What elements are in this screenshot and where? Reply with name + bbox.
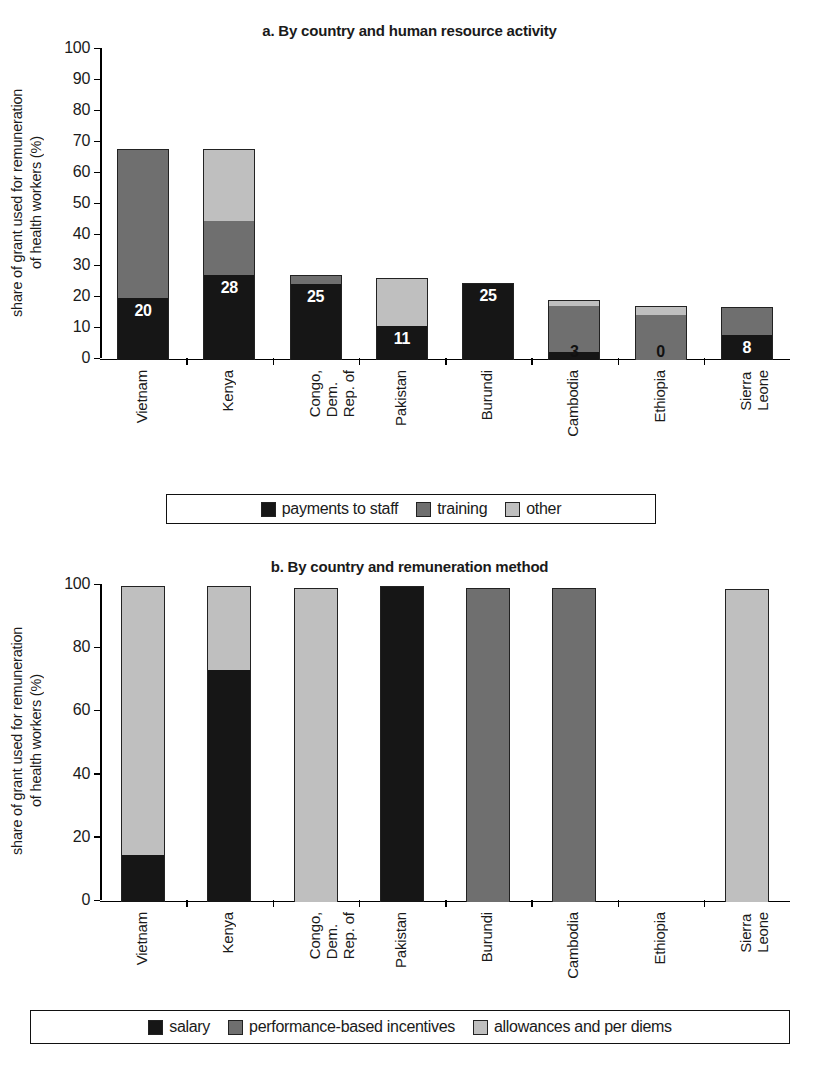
y-tick-mark <box>94 141 100 143</box>
legend-swatch-icon <box>148 1020 163 1035</box>
panel-b-legend: salaryperformance-based incentivesallowa… <box>30 1010 790 1044</box>
y-tick-label: 20 <box>30 828 90 846</box>
x-tick-mark <box>273 358 275 365</box>
bar-kenya[interactable] <box>207 586 251 902</box>
x-category-label: Pakistan <box>392 912 409 968</box>
x-tick-mark <box>186 900 188 907</box>
bar-sierra-leone[interactable]: 8 <box>721 50 773 360</box>
legend-item[interactable]: salary <box>148 1018 210 1036</box>
y-tick-mark <box>94 110 100 112</box>
panel-b-plot-area: 020406080100VietnamKenyaCongo, Dem. Rep.… <box>100 584 790 902</box>
bar-sierra-leone[interactable] <box>725 586 769 902</box>
bar-burundi[interactable] <box>466 586 510 902</box>
panel-a-title: a. By country and human resource activit… <box>0 22 819 39</box>
y-tick-label: 70 <box>30 132 90 150</box>
bar-pakistan[interactable] <box>380 586 424 902</box>
x-tick-mark <box>704 900 706 907</box>
y-tick-label: 40 <box>30 765 90 783</box>
bar-segment-salary <box>380 586 424 902</box>
bar-segment-training <box>721 307 773 335</box>
x-category-label: Vietnam <box>133 912 150 965</box>
legend-item[interactable]: allowances and per diems <box>473 1018 672 1036</box>
bar-segment-other <box>203 149 255 220</box>
legend-item[interactable]: training <box>416 500 487 518</box>
y-tick-mark <box>94 584 100 586</box>
y-tick-label: 100 <box>30 39 90 57</box>
legend-swatch-icon <box>228 1020 243 1035</box>
y-tick-label: 40 <box>30 225 90 243</box>
bar-segment-allowances-and-per-diems <box>121 586 165 855</box>
x-tick-mark <box>186 358 188 365</box>
x-category-label: Vietnam <box>133 370 150 423</box>
y-tick-label: 90 <box>30 70 90 88</box>
bar-segment-allowances-and-per-diems <box>294 588 338 902</box>
y-tick-label: 60 <box>30 701 90 719</box>
bar-vietnam[interactable] <box>121 586 165 902</box>
panel-b-title: b. By country and remuneration method <box>0 558 819 575</box>
bar-segment-other <box>548 300 600 306</box>
y-tick-label: 50 <box>30 194 90 212</box>
y-tick-mark <box>94 172 100 174</box>
bar-ethiopia[interactable]: 0 <box>635 50 687 360</box>
legend-item[interactable]: payments to staff <box>261 500 398 518</box>
panel-b: b. By country and remuneration method sh… <box>0 540 819 1074</box>
x-category-label: Cambodia <box>564 370 581 437</box>
bar-segment-training <box>290 275 342 284</box>
bar-segment-performance-based-incentives <box>466 588 510 902</box>
bar-burundi[interactable]: 25 <box>462 50 514 360</box>
y-tick-mark <box>94 234 100 236</box>
y-tick-mark <box>94 773 100 775</box>
x-category-label: Congo, Dem. Rep. of <box>306 912 357 959</box>
bar-segment-salary <box>121 855 165 902</box>
bar-congo-dem-rep-of[interactable] <box>294 586 338 902</box>
legend-item[interactable]: performance-based incentives <box>228 1018 455 1036</box>
bar-ethiopia[interactable] <box>639 586 683 902</box>
y-tick-mark <box>94 327 100 329</box>
legend-label: payments to staff <box>282 500 398 518</box>
legend-item[interactable]: other <box>505 500 561 518</box>
legend-swatch-icon <box>505 502 520 517</box>
bar-data-label: 25 <box>290 288 342 306</box>
y-tick-label: 10 <box>30 318 90 336</box>
bar-congo-dem-rep-of[interactable]: 25 <box>290 50 342 360</box>
panel-a-legend: payments to stafftrainingother <box>166 494 656 524</box>
y-tick-label: 30 <box>30 256 90 274</box>
x-category-label: Congo, Dem. Rep. of <box>306 370 357 417</box>
y-tick-mark <box>94 296 100 298</box>
y-tick-label: 60 <box>30 163 90 181</box>
bar-vietnam[interactable]: 20 <box>117 50 169 360</box>
bar-segment-salary <box>207 670 251 902</box>
legend-label: salary <box>169 1018 210 1036</box>
x-category-label: Sierra Leone <box>737 370 771 411</box>
bar-segment-allowances-and-per-diems <box>207 586 251 670</box>
bar-segment-performance-based-incentives <box>552 588 596 902</box>
bar-data-label: 0 <box>635 343 687 361</box>
bar-segment-training <box>117 149 169 298</box>
bar-kenya[interactable]: 28 <box>203 50 255 360</box>
x-category-label: Kenya <box>219 912 236 954</box>
y-tick-mark <box>94 900 100 902</box>
x-tick-mark <box>445 358 447 365</box>
panel-b-y-axis <box>100 584 102 900</box>
bar-data-label: 8 <box>721 339 773 357</box>
bar-data-label: 20 <box>117 302 169 320</box>
y-tick-mark <box>94 265 100 267</box>
panel-a-plot-area: 010203040506070809010020Vietnam28Kenya25… <box>100 48 790 360</box>
x-category-label: Ethiopia <box>651 370 668 423</box>
x-category-label: Burundi <box>478 370 495 420</box>
legend-swatch-icon <box>261 502 276 517</box>
bar-segment-training <box>203 221 255 275</box>
y-tick-mark <box>94 647 100 649</box>
x-tick-mark <box>359 358 361 365</box>
y-tick-label: 20 <box>30 287 90 305</box>
bar-segment-allowances-and-per-diems <box>725 589 769 902</box>
panel-a-y-axis <box>100 48 102 358</box>
y-tick-label: 0 <box>30 349 90 367</box>
bar-cambodia[interactable]: 3 <box>548 50 600 360</box>
bar-pakistan[interactable]: 11 <box>376 50 428 360</box>
y-tick-label: 80 <box>30 638 90 656</box>
x-category-label: Sierra Leone <box>737 912 771 953</box>
legend-label: other <box>526 500 561 518</box>
legend-swatch-icon <box>416 502 431 517</box>
bar-cambodia[interactable] <box>552 586 596 902</box>
